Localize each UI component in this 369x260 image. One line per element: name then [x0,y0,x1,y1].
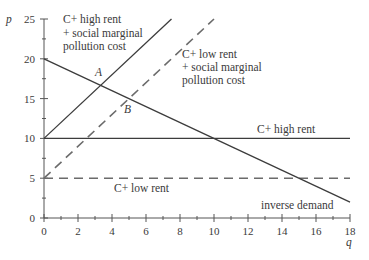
x-tick-label: 10 [209,225,221,237]
label-low-rent-social-line1: C+ low rent [182,48,238,60]
x-tick-label: 8 [177,225,183,237]
label-low-rent-social-line2: + social marginal [182,61,262,74]
x-axis-label: q [346,236,352,249]
y-axis-label: p [5,13,12,26]
y-tick-label: 20 [24,53,36,65]
point-b-label: B [124,103,131,115]
y-tick-label: 25 [24,13,36,25]
x-tick-label: 12 [243,225,254,237]
chart: 0246810121416180510152025 p q C+ high re… [0,0,369,260]
label-high-rent-social-line2: + social marginal [63,27,143,40]
label-inverse-demand: inverse demand [261,199,334,211]
y-tick-label: 10 [24,132,36,144]
x-tick-label: 0 [41,225,47,237]
label-low-rent-social-line3: pollution cost [182,74,246,87]
y-tick-label: 0 [30,212,36,224]
label-high-rent-social: C+ high rent + social marginal pollution… [63,13,146,53]
x-tick-label: 16 [311,225,323,237]
label-low-rent: C+ low rent [114,182,170,194]
x-tick-label: 6 [143,225,149,237]
x-tick-label: 4 [109,225,115,237]
x-tick-label: 2 [75,225,81,237]
x-tick-label: 14 [277,225,289,237]
point-a-label: A [94,66,103,78]
label-low-rent-social: C+ low rent + social marginal pollution … [182,48,265,87]
y-tick-label: 15 [24,93,36,105]
label-high-rent-social-line1: C+ high rent [63,13,122,26]
y-tick-label: 5 [30,172,36,184]
label-high-rent: C+ high rent [257,123,316,136]
label-high-rent-social-line3: pollution cost [63,40,127,53]
